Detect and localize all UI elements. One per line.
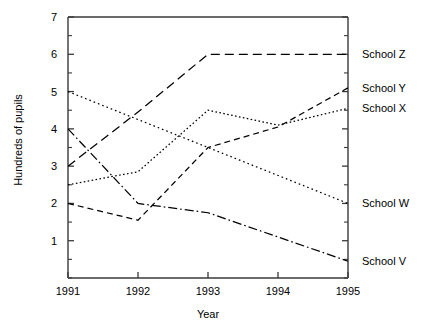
data-series-group xyxy=(68,54,348,261)
x-tick-label: 1991 xyxy=(56,285,80,297)
x-tick-label: 1994 xyxy=(266,285,290,297)
x-axis-tick-labels: 19911992199319941995 xyxy=(56,285,360,297)
y-axis-tick-labels: 1234567 xyxy=(51,11,57,247)
series-label-school-x: School X xyxy=(362,102,407,114)
x-tick-label: 1993 xyxy=(196,285,220,297)
y-tick-label: 6 xyxy=(51,48,57,60)
x-axis-ticks xyxy=(68,272,348,278)
series-line-school-y xyxy=(68,88,348,220)
series-label-school-w: School W xyxy=(362,197,410,209)
y-tick-label: 3 xyxy=(51,160,57,172)
y-axis-left: 1234567 xyxy=(51,11,74,278)
x-axis: 19911992199319941995 xyxy=(56,272,360,297)
y-axis-right xyxy=(342,17,348,278)
x-tick-label: 1995 xyxy=(336,285,360,297)
series-line-school-v xyxy=(68,129,348,261)
x-axis-title: Year xyxy=(197,308,220,320)
series-label-school-z: School Z xyxy=(362,48,406,60)
x-tick-label: 1992 xyxy=(126,285,150,297)
y-axis-ticks-right xyxy=(342,17,348,278)
y-tick-label: 5 xyxy=(51,86,57,98)
series-label-group: School ZSchool YSchool XSchool WSchool V xyxy=(362,48,410,267)
y-tick-label: 7 xyxy=(51,11,57,23)
y-tick-label: 1 xyxy=(51,235,57,247)
y-tick-label: 4 xyxy=(51,123,57,135)
series-label-school-v: School V xyxy=(362,255,407,267)
line-chart: 1234567 19911992199319941995 School ZSch… xyxy=(0,0,426,330)
y-tick-label: 2 xyxy=(51,197,57,209)
y-axis-ticks-left xyxy=(68,17,74,278)
series-label-school-y: School Y xyxy=(362,82,406,94)
chart-canvas: 1234567 19911992199319941995 School ZSch… xyxy=(0,0,426,330)
series-line-school-x xyxy=(68,108,348,184)
y-axis-title: Hundreds of pupils xyxy=(12,94,24,186)
